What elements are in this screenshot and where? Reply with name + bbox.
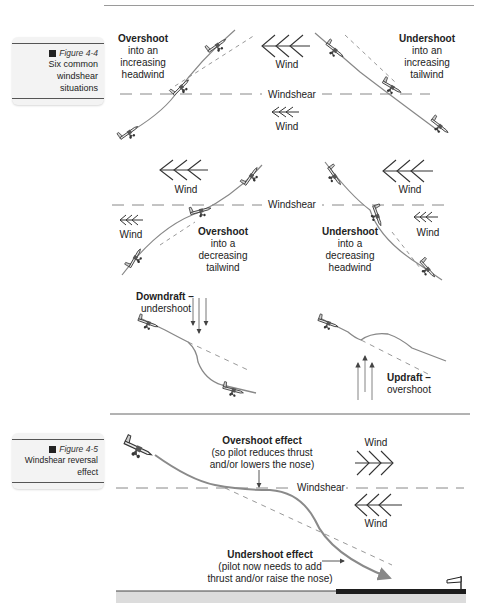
wind-label: Wind — [355, 518, 397, 530]
wind-arrow-small-icon — [120, 215, 143, 225]
windshear-label: Windshear — [262, 199, 322, 211]
wind-label: Wind — [262, 59, 312, 71]
windshear-label: Windshear — [262, 89, 322, 101]
wind-arrow-small-icon — [414, 212, 438, 222]
wind-arrow-icon — [262, 35, 310, 57]
label-downdraft-undershoot: Downdraft – undershoot — [136, 291, 194, 315]
panel-overshoot-decreasing-tailwind — [112, 164, 448, 275]
wind-label: Wind — [111, 229, 151, 241]
label-undershoot-decreasing-headwind: Undershoot into a decreasing headwind — [317, 226, 383, 274]
wind-label: Wind — [385, 184, 435, 196]
label-updraft-overshoot: Updraft – overshoot — [387, 372, 431, 396]
runway — [336, 589, 466, 594]
windshear-label: Windshear — [296, 482, 346, 494]
wind-arrow-icon — [383, 160, 433, 182]
wind-arrow-small-icon — [272, 107, 299, 117]
label-undershoot-effect: Undershoot effect (pilot now needs to ad… — [200, 549, 340, 585]
wind-label: Wind — [262, 121, 312, 133]
label-overshoot-effect: Overshoot effect (so pilot reduces thrus… — [207, 435, 317, 471]
wind-arrow-icon — [160, 160, 208, 180]
wind-label: Wind — [408, 227, 448, 239]
windshear-diagram — [0, 0, 486, 610]
wind-label: Wind — [161, 184, 211, 196]
label-overshoot-decreasing-tailwind: Overshoot into a decreasing tailwind — [190, 226, 256, 274]
label-overshoot-increasing-headwind: Overshoot into an increasing headwind — [113, 33, 173, 81]
label-undershoot-increasing-tailwind: Undershoot into an increasing tailwind — [395, 33, 459, 81]
wind-label: Wind — [355, 437, 397, 449]
